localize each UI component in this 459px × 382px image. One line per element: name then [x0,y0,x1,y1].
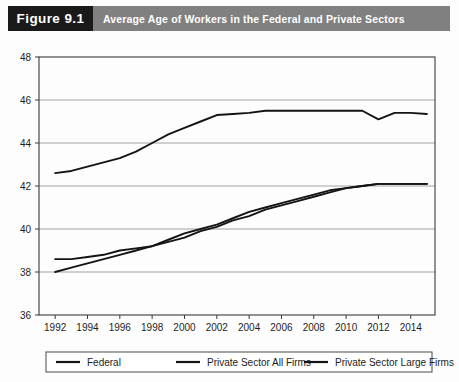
x-tick-label: 2002 [206,322,229,333]
figure-title: Average Age of Workers in the Federal an… [103,6,446,31]
y-tick-label: 40 [20,224,32,235]
x-tick-label: 2012 [367,322,390,333]
line-chart-svg: 36384042444648 1992199419961998200020022… [0,36,459,382]
y-tick-label: 46 [20,95,32,106]
figure-number-badge: Figure 9.1 [8,6,93,31]
y-tick-label: 42 [20,181,32,192]
x-tick-label: 2000 [173,322,196,333]
y-axis-ticks: 36384042444648 [20,52,39,321]
y-tick-label: 48 [20,52,32,63]
data-series [55,111,427,272]
legend-label-2: Private Sector Large Firms [335,357,454,368]
x-tick-label: 2004 [238,322,261,333]
legend-label-1: Private Sector All Firms [207,357,311,368]
figure-header-bar: Figure 9.1 Average Age of Workers in the… [8,6,450,31]
figure-container: Figure 9.1 Average Age of Workers in the… [0,0,459,382]
chart-legend: FederalPrivate Sector All FirmsPrivate S… [46,352,454,372]
series-line-private-sector-large-firms [55,184,427,272]
y-tick-label: 38 [20,267,32,278]
y-tick-label: 36 [20,310,32,321]
series-line-private-sector-all-firms [55,184,427,259]
y-tick-label: 44 [20,138,32,149]
x-tick-label: 1992 [44,322,67,333]
series-line-federal [55,111,427,173]
gridlines [39,100,435,272]
chart-area: 36384042444648 1992199419961998200020022… [0,36,459,382]
x-tick-label: 2010 [335,322,358,333]
x-tick-label: 1998 [141,322,164,333]
x-tick-label: 1996 [109,322,132,333]
legend-label-0: Federal [87,357,121,368]
x-tick-label: 2006 [270,322,293,333]
x-tick-label: 1994 [76,322,99,333]
x-tick-label: 2014 [400,322,423,333]
x-axis-ticks: 1992199419961998200020022004200620082010… [44,315,422,333]
x-tick-label: 2008 [303,322,326,333]
